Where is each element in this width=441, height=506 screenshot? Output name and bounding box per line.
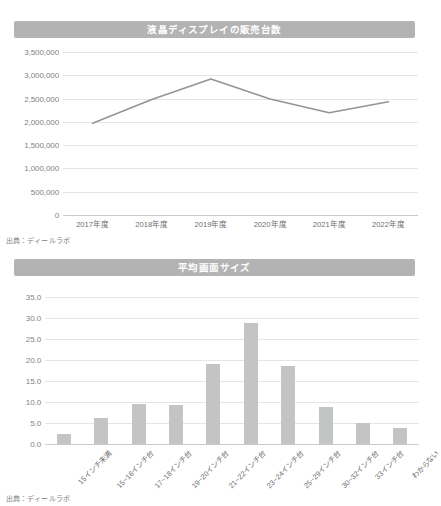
y-axis-tick-label: 10.0	[26, 398, 41, 407]
size-y-axis: 0.05.010.015.020.025.030.035.0	[0, 297, 41, 444]
x-axis-slot: 23~24インチ台	[232, 446, 269, 498]
bar-slot	[120, 297, 157, 444]
y-axis-tick-label: 3,500,000	[24, 48, 59, 57]
gridline	[63, 215, 418, 216]
bar	[206, 364, 220, 444]
sales-x-axis: 2017年度2018年度2019年度2020年度2021年度2022年度	[63, 218, 418, 232]
bar-slot	[382, 297, 419, 444]
bar	[94, 418, 108, 444]
x-axis-slot: 19~20インチ台	[157, 446, 194, 498]
x-axis-slot: わからない	[382, 446, 419, 498]
y-axis-tick-label: 2,500,000	[24, 94, 59, 103]
x-axis-slot: 30~32インチ台	[307, 446, 344, 498]
x-axis-tick-label: 2017年度	[63, 218, 122, 232]
x-axis-tick-label: 2018年度	[122, 218, 181, 232]
y-axis-tick-label: 15.0	[26, 377, 41, 386]
x-axis-slot: 15~16インチ台	[82, 446, 119, 498]
bar	[57, 434, 71, 444]
bar-slot	[344, 297, 381, 444]
y-axis-tick-label: 500,000	[31, 187, 59, 196]
bar	[319, 407, 333, 444]
bar	[393, 428, 407, 444]
size-bar-series	[45, 297, 419, 444]
sales-line-series	[63, 52, 418, 215]
bar-slot	[307, 297, 344, 444]
y-axis-tick-label: 35.0	[26, 293, 41, 302]
bar-slot	[232, 297, 269, 444]
x-axis-tick-label: 2019年度	[181, 218, 240, 232]
sales-chart-panel: 液晶ディスプレイの販売台数 0500,0001,000,0001,500,000…	[0, 0, 429, 250]
y-axis-tick-label: 0.0	[30, 440, 41, 449]
y-axis-tick-label: 3,000,000	[24, 71, 59, 80]
x-axis-slot: 25~29インチ台	[269, 446, 306, 498]
y-axis-tick-label: 30.0	[26, 314, 41, 323]
x-axis-slot: 21~22インチ台	[195, 446, 232, 498]
bar	[132, 404, 146, 444]
x-axis-slot: 33インチ台	[344, 446, 381, 498]
size-chart-panel: 平均画面サイズ 0.05.010.015.020.025.030.035.0 1…	[0, 250, 429, 506]
sales-source-note: 出典：ディールラボ	[6, 235, 70, 245]
bar-slot	[157, 297, 194, 444]
bar-slot	[269, 297, 306, 444]
y-axis-tick-label: 5.0	[30, 419, 41, 428]
bar-slot	[82, 297, 119, 444]
bar	[356, 423, 370, 444]
y-axis-tick-label: 2,000,000	[24, 117, 59, 126]
sales-plot-area	[63, 52, 418, 215]
y-axis-tick-label: 1,500,000	[24, 141, 59, 150]
gridline	[45, 444, 419, 445]
x-axis-slot: 15インチ未満	[45, 446, 82, 498]
y-axis-tick-label: 1,000,000	[24, 164, 59, 173]
size-source-note: 出典：ディールラボ	[6, 493, 70, 503]
size-chart-title-banner: 平均画面サイズ	[14, 259, 415, 276]
sales-chart-title-banner: 液晶ディスプレイの販売台数	[14, 21, 415, 38]
size-x-axis: 15インチ未満15~16インチ台17~18インチ台19~20インチ台21~22イ…	[45, 446, 419, 498]
x-axis-slot: 17~18インチ台	[120, 446, 157, 498]
x-axis-tick-label: 2020年度	[241, 218, 300, 232]
bar	[244, 323, 258, 444]
sales-y-axis: 0500,0001,000,0001,500,0002,000,0002,500…	[0, 52, 59, 215]
sales-chart-title: 液晶ディスプレイの販売台数	[147, 25, 281, 35]
bar	[281, 366, 295, 444]
bar-slot	[195, 297, 232, 444]
size-chart-title: 平均画面サイズ	[178, 263, 251, 273]
bar	[169, 405, 183, 444]
bar-slot	[45, 297, 82, 444]
y-axis-tick-label: 20.0	[26, 356, 41, 365]
x-axis-tick-label: 2021年度	[300, 218, 359, 232]
y-axis-tick-label: 25.0	[26, 335, 41, 344]
x-axis-tick-label: 2022年度	[359, 218, 418, 232]
size-plot-area	[45, 297, 419, 444]
x-axis-tick-label: わからない	[409, 448, 441, 481]
y-axis-tick-label: 0	[55, 211, 59, 220]
